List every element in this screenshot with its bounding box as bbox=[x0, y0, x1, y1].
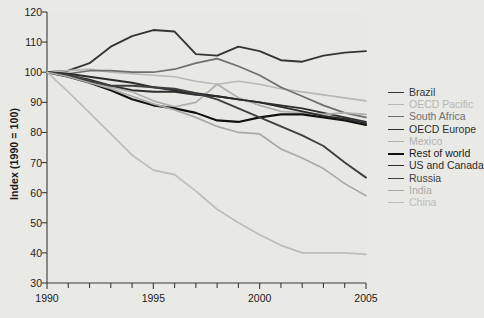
legend-item-china[interactable]: China bbox=[388, 197, 484, 209]
plot-background bbox=[47, 12, 366, 283]
legend-item-rest-of-world[interactable]: Rest of world bbox=[388, 147, 484, 159]
legend-color-swatch bbox=[388, 116, 404, 117]
legend-item-south-africa[interactable]: South Africa bbox=[388, 111, 484, 123]
legend-item-mexico[interactable]: Mexico bbox=[388, 135, 484, 147]
x-axis-tick-label: 1990 bbox=[27, 292, 67, 304]
y-axis-tick-label: 110 bbox=[18, 37, 42, 48]
y-axis-tick-labels: 12011010090807060504030 bbox=[14, 0, 42, 318]
legend-item-india[interactable]: India bbox=[388, 184, 484, 196]
y-axis-tick-label: 50 bbox=[18, 218, 42, 229]
legend-item-label: Rest of world bbox=[409, 148, 470, 159]
x-axis-tick-label: 2000 bbox=[240, 292, 280, 304]
legend-item-label: Russia bbox=[409, 173, 441, 184]
legend-item-russia[interactable]: Russia bbox=[388, 172, 484, 184]
legend-item-label: Brazil bbox=[409, 87, 435, 98]
legend-item-us-and-canada[interactable]: US and Canada bbox=[388, 160, 484, 172]
legend-item-label: India bbox=[409, 185, 432, 196]
y-axis-tick-label: 90 bbox=[18, 97, 42, 108]
legend-item-label: China bbox=[409, 197, 436, 208]
legend-item-label: OECD Europe bbox=[409, 124, 476, 135]
y-axis-tick-label: 70 bbox=[18, 158, 42, 169]
legend-item-oecd-europe[interactable]: OECD Europe bbox=[388, 123, 484, 135]
y-axis-tick-label: 120 bbox=[18, 7, 42, 18]
legend-color-swatch bbox=[388, 202, 404, 203]
legend-item-oecd-pacific[interactable]: OECD Pacific bbox=[388, 98, 484, 110]
y-axis-tick-label: 30 bbox=[18, 278, 42, 289]
legend-color-swatch bbox=[388, 104, 404, 105]
legend-color-swatch bbox=[388, 190, 404, 191]
legend-color-swatch bbox=[388, 165, 404, 166]
legend-color-swatch bbox=[388, 178, 404, 179]
legend-color-swatch bbox=[388, 129, 404, 130]
chart-legend: BrazilOECD PacificSouth AfricaOECD Europ… bbox=[388, 86, 484, 209]
legend-color-swatch bbox=[388, 141, 404, 142]
legend-color-swatch bbox=[388, 153, 404, 155]
legend-item-brazil[interactable]: Brazil bbox=[388, 86, 484, 98]
y-axis-tick-label: 80 bbox=[18, 127, 42, 138]
y-axis-tick-label: 40 bbox=[18, 248, 42, 259]
legend-item-label: Mexico bbox=[409, 136, 442, 147]
legend-item-label: OECD Pacific bbox=[409, 99, 473, 110]
legend-item-label: US and Canada bbox=[409, 160, 484, 171]
y-axis-tick-label: 100 bbox=[18, 67, 42, 78]
x-axis-tick-label: 2005 bbox=[346, 292, 386, 304]
legend-item-label: South Africa bbox=[409, 111, 466, 122]
y-axis-tick-label: 60 bbox=[18, 188, 42, 199]
x-axis-tick-label: 1995 bbox=[133, 292, 173, 304]
legend-color-swatch bbox=[388, 92, 404, 93]
